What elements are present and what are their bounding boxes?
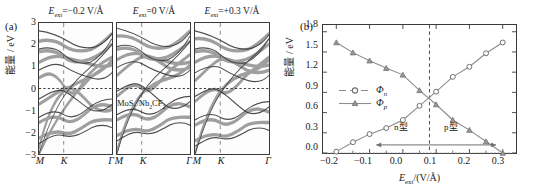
xtick-label: 0.0 [390, 156, 403, 166]
ktick-M: M [36, 156, 44, 166]
figure-root: (a) 能量 / eV 3 2 1 0 −1 −2 −3 Eext=−0.2 V… [0, 0, 534, 192]
ktick-G: Γ [108, 156, 114, 166]
subpanel-title-0: Eext=−0.2 V/Å [30, 6, 122, 18]
chart-legend: Φn Φp [338, 84, 387, 110]
panel-a-ytick: 3 [31, 17, 36, 27]
panel-a: (a) 能量 / eV 3 2 1 0 −1 −2 −3 Eext=−0.2 V… [0, 0, 276, 192]
panel-b-yticks: 1.8 1.5 1.2 0.9 0.6 0.3 0.0 [296, 24, 318, 154]
panel-b: (b) 能量 / eV 1.8 1.5 1.2 0.9 0.6 0.3 0.0 [276, 0, 534, 192]
ktick-K: K [61, 156, 68, 166]
material-label: MoS2/Nb2CF2 [117, 98, 165, 110]
ytick-label: 1.5 [306, 40, 319, 50]
ytick-label: 0.3 [306, 122, 319, 132]
legend-symbol-triangle [338, 98, 372, 109]
ktick-K: K [140, 156, 147, 166]
ytick-label: 0.6 [306, 101, 319, 111]
band-panel-zero [116, 22, 191, 155]
band-structure-row [38, 22, 270, 155]
ytick-label: 1.8 [306, 19, 319, 29]
ktick-M: M [115, 156, 123, 166]
legend-label-phi-n: Φn [376, 84, 387, 97]
xtick-label: −0.1 [354, 156, 372, 166]
xtick-label: 0.2 [458, 156, 471, 166]
subpanel-title-1: Eext=0 V/Å [110, 6, 198, 18]
ytick-label: 1.2 [306, 60, 319, 70]
annotation-n-type: n型 [394, 120, 408, 133]
ktick-M: M [193, 156, 201, 166]
legend-item-phi-p: Φp [338, 97, 387, 110]
ktick-G: Γ [186, 156, 192, 166]
xtick-label: 0.3 [492, 156, 505, 166]
panel-a-ytick: −2 [25, 128, 36, 138]
panel-a-ylabel: 能量 / eV [2, 61, 17, 75]
legend-label-phi-p: Φp [376, 97, 387, 110]
subpanel-title-2: Eext=+0.3 V/Å [186, 6, 278, 18]
ktick-K: K [218, 156, 225, 166]
annotation-p-type: p型 [444, 120, 458, 133]
ytick-label: 0.9 [306, 81, 319, 91]
band-panel-plus03 [194, 22, 270, 155]
panel-b-xticks: −0.2 −0.1 0.0 0.1 0.2 0.3 [322, 156, 517, 169]
ktick-G: Γ [265, 156, 271, 166]
panel-b-xlabel: Eext/(V/Å) [322, 172, 517, 185]
xtick-label: −0.2 [320, 156, 338, 166]
panel-a-ytick: 2 [31, 39, 36, 49]
panel-b-ylabel: 能量 / eV [281, 63, 296, 77]
panel-a-ytick: −1 [25, 106, 36, 116]
ytick-label: 0.0 [306, 142, 319, 152]
panel-a-ytick: −3 [25, 150, 36, 160]
panel-a-yticks: 3 2 1 0 −1 −2 −3 [20, 22, 36, 155]
panel-a-tag: (a) [5, 20, 17, 32]
legend-symbol-circle [338, 85, 372, 96]
panel-a-kticks: M K Γ M K Γ M K Γ [38, 156, 270, 169]
panel-a-ytick: 1 [31, 61, 36, 71]
band-panel-minus02 [38, 22, 113, 155]
legend-item-phi-n: Φn [338, 84, 387, 97]
panel-a-ytick: 0 [31, 84, 36, 94]
xtick-label: 0.1 [424, 156, 437, 166]
